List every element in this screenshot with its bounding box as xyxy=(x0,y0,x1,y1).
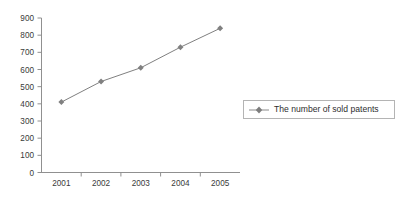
chart-series-layer xyxy=(58,25,223,105)
series-data-point xyxy=(217,25,223,31)
y-tick-label: 500 xyxy=(20,83,34,92)
y-tick-label: 0 xyxy=(29,169,34,178)
series-data-point xyxy=(177,44,183,50)
legend-marker-icon xyxy=(248,105,270,115)
chart-legend: The number of sold patents xyxy=(243,100,395,119)
chart-axes xyxy=(41,18,240,173)
y-tick-label: 300 xyxy=(20,117,34,126)
y-tick-label: 100 xyxy=(20,151,34,160)
x-tick-label: 2002 xyxy=(92,179,111,188)
legend-label: The number of sold patents xyxy=(274,105,379,114)
series-data-point xyxy=(58,99,64,105)
y-tick-label: 400 xyxy=(20,100,34,109)
y-tick-label: 800 xyxy=(20,31,34,40)
y-axis-tick-labels: 0100200300400500600700800900 xyxy=(20,14,34,178)
x-tick-label: 2005 xyxy=(211,179,230,188)
y-tick-label: 900 xyxy=(20,14,34,23)
x-axis-ticks xyxy=(81,173,200,177)
line-chart: 0100200300400500600700800900 20012002200… xyxy=(0,0,403,203)
x-tick-label: 2003 xyxy=(132,179,151,188)
y-tick-label: 600 xyxy=(20,66,34,75)
y-tick-label: 200 xyxy=(20,134,34,143)
series-data-point xyxy=(98,79,104,85)
x-tick-label: 2004 xyxy=(171,179,190,188)
y-tick-label: 700 xyxy=(20,48,34,57)
legend-item: The number of sold patents xyxy=(248,105,379,115)
x-tick-label: 2001 xyxy=(52,179,71,188)
y-axis-ticks xyxy=(38,18,42,173)
x-axis-tick-labels: 20012002200320042005 xyxy=(52,179,229,188)
series-data-point xyxy=(138,65,144,71)
